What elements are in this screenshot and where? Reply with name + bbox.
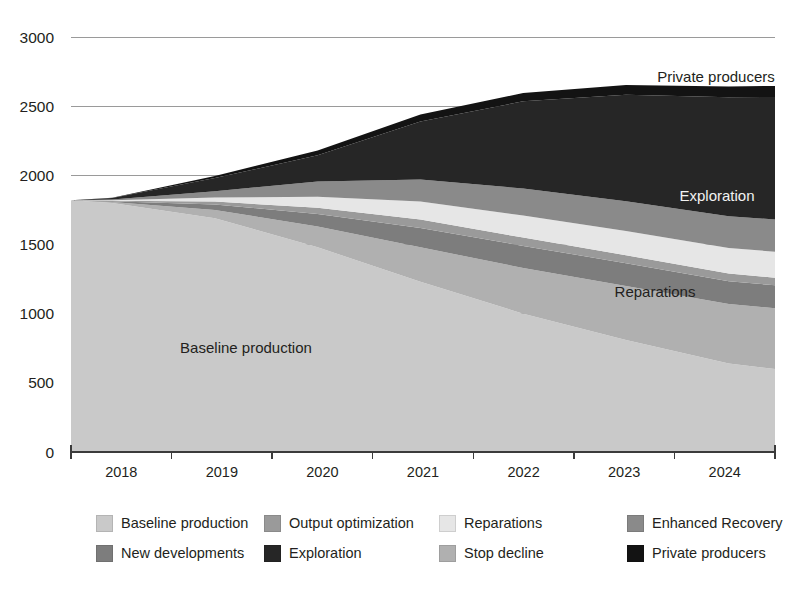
- legend-swatch-icon: [439, 515, 456, 532]
- x-tick-label: 2020: [306, 464, 338, 480]
- legend-label: New developments: [121, 545, 244, 561]
- legend-label: Baseline production: [121, 515, 248, 531]
- stacked-area-chart: 050010001500200025003000 201820192020202…: [0, 0, 802, 500]
- legend-item-stop-decline[interactable]: Stop decline: [439, 538, 627, 568]
- chart-canvas: 050010001500200025003000 201820192020202…: [0, 0, 802, 500]
- y-tick-label: 1000: [20, 305, 55, 322]
- y-axis-tick-labels: 050010001500200025003000: [20, 29, 55, 461]
- legend-row: Baseline production Output optimization …: [96, 508, 802, 538]
- legend-swatch-icon: [627, 545, 644, 562]
- legend-label: Reparations: [464, 515, 542, 531]
- legend-swatch-icon: [264, 545, 281, 562]
- x-tick-label: 2018: [105, 464, 137, 480]
- legend-label: Stop decline: [464, 545, 544, 561]
- legend-row: New developments Exploration Stop declin…: [96, 538, 802, 568]
- legend-swatch-icon: [96, 515, 113, 532]
- y-tick-label: 2000: [20, 167, 55, 184]
- y-tick-label: 0: [45, 444, 54, 461]
- y-tick-label: 2500: [20, 98, 55, 115]
- legend-swatch-icon: [264, 515, 281, 532]
- x-tick-label: 2021: [407, 464, 439, 480]
- legend-label: Enhanced Recovery: [652, 515, 783, 531]
- legend-item-enhanced-recovery[interactable]: Enhanced Recovery: [627, 508, 802, 538]
- x-axis-tick-labels: 2018201920202021202220232024: [105, 464, 741, 480]
- x-tick-label: 2022: [507, 464, 539, 480]
- series-annotation: Exploration: [679, 187, 754, 204]
- series-annotation: Baseline production: [180, 339, 312, 356]
- legend-label: Private producers: [652, 545, 766, 561]
- legend-item-private-producers[interactable]: Private producers: [627, 538, 802, 568]
- x-tick-label: 2023: [608, 464, 640, 480]
- y-tick-label: 500: [28, 374, 54, 391]
- chart-legend: Baseline production Output optimization …: [0, 500, 802, 597]
- chart-page: 050010001500200025003000 201820192020202…: [0, 0, 802, 597]
- series-annotation: Reparations: [615, 283, 696, 300]
- legend-swatch-icon: [439, 545, 456, 562]
- legend-item-output-optimization[interactable]: Output optimization: [264, 508, 439, 538]
- x-tick-label: 2019: [206, 464, 238, 480]
- legend-item-new-developments[interactable]: New developments: [96, 538, 264, 568]
- x-tick-label: 2024: [709, 464, 741, 480]
- y-tick-label: 1500: [20, 236, 55, 253]
- legend-label: Exploration: [289, 545, 362, 561]
- legend-item-baseline-production[interactable]: Baseline production: [96, 508, 264, 538]
- legend-item-reparations[interactable]: Reparations: [439, 508, 627, 538]
- y-tick-label: 3000: [20, 29, 55, 46]
- series-annotation: Private producers: [657, 68, 775, 85]
- legend-label: Output optimization: [289, 515, 414, 531]
- legend-swatch-icon: [627, 515, 644, 532]
- area-series-group: [71, 85, 775, 452]
- legend-swatch-icon: [96, 545, 113, 562]
- legend-item-exploration[interactable]: Exploration: [264, 538, 439, 568]
